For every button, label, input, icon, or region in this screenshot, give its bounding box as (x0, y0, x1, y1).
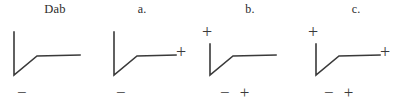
panel-label: Dab (0, 2, 110, 16)
waveform-figure: Dab − a. + − b. + − + c. + + − + (0, 0, 408, 109)
panel-c: c. + + − + (300, 0, 408, 109)
waveform-trace (300, 28, 408, 88)
polarity-sign-bottom: − (17, 84, 30, 101)
panel-label: a. (122, 2, 162, 16)
panel-label: b. (230, 2, 270, 16)
polarity-sign-right: + (380, 44, 390, 61)
panel-b: b. + − + (200, 0, 304, 109)
polarity-sign-bottom: − + (220, 84, 252, 101)
waveform-trace (108, 28, 208, 88)
panel-dab: Dab − (0, 0, 110, 109)
polarity-sign-bottom: − (116, 84, 129, 101)
panel-a: a. + − (108, 0, 208, 109)
panel-label: c. (336, 2, 376, 16)
polarity-sign-bottom: − + (324, 84, 356, 101)
polarity-sign-right: + (176, 44, 186, 61)
waveform-trace (0, 28, 110, 88)
waveform-trace (200, 28, 304, 88)
